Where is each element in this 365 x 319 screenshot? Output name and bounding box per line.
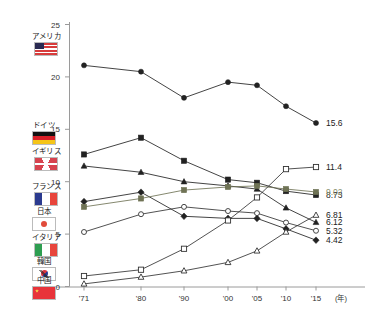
data-point-marker (226, 209, 231, 214)
series-line (84, 192, 316, 240)
legend-item-france[interactable]: フランス (32, 183, 61, 206)
legend-item-label: 日本 (37, 208, 51, 216)
line-chart: 0510152025'71'80'90'00'05'10'15(年)15.68.… (0, 0, 365, 319)
series-line (84, 186, 316, 207)
series-1: 15.6 (82, 63, 343, 128)
data-point-marker (283, 186, 288, 191)
data-point-marker (225, 177, 230, 182)
flag-united-kingdom-icon (34, 157, 58, 171)
data-point-marker (181, 246, 186, 251)
data-point-marker (139, 69, 144, 74)
data-point-marker (225, 184, 230, 189)
legend-item-china[interactable]: 中国 (32, 277, 56, 300)
data-point-marker (254, 183, 259, 188)
data-point-marker (81, 152, 86, 157)
data-point-marker (283, 205, 289, 210)
series-end-value-label: 6.81 (326, 210, 343, 220)
series-8: 6.81 (81, 210, 343, 286)
data-point-marker (255, 211, 260, 216)
data-point-marker (81, 273, 86, 278)
data-point-marker (181, 158, 186, 163)
flag-italy-icon (34, 243, 58, 257)
data-point-marker (284, 220, 289, 225)
series-line (84, 166, 316, 222)
data-point-marker (82, 63, 87, 68)
legend-item-label: アメリカ (32, 33, 61, 41)
series-line (84, 207, 316, 232)
data-point-marker (139, 212, 144, 217)
data-point-marker (255, 83, 260, 88)
x-axis-tick-label: '90 (179, 294, 190, 303)
legend-item-label: フランス (32, 183, 61, 191)
legend-item-label: 中国 (37, 277, 51, 285)
x-axis-tick-label: '80 (136, 294, 147, 303)
legend-item-label: 韓国 (37, 258, 51, 266)
flag-japan-icon (32, 217, 56, 231)
series-end-value-label: 15.6 (326, 118, 343, 128)
legend-item-italy[interactable]: イタリア (32, 234, 61, 257)
data-point-marker (254, 248, 260, 253)
flag-germany-icon (32, 131, 56, 145)
flag-france-icon (34, 192, 58, 206)
data-point-marker (313, 237, 319, 244)
series-end-value-label: 9.02 (326, 187, 343, 197)
data-point-marker (313, 164, 318, 169)
legend-item-label: ドイツ (33, 122, 55, 130)
y-axis-tick-label: 0 (56, 283, 61, 292)
series-end-value-label: 5.32 (326, 226, 343, 236)
y-axis-tick-label: 25 (51, 21, 60, 30)
y-axis-tick-label: 20 (51, 73, 60, 82)
x-axis-unit-label: (年) (335, 293, 347, 303)
data-point-marker (313, 189, 318, 194)
series-line (84, 65, 316, 123)
legend-item-united-kingdom[interactable]: イギリス (32, 148, 61, 171)
legend-item-label: イタリア (32, 234, 61, 242)
data-point-marker (81, 198, 87, 205)
data-point-marker (314, 121, 319, 126)
series-line (84, 138, 316, 195)
data-point-marker (138, 267, 143, 272)
data-point-marker (283, 167, 288, 172)
x-axis-tick-label: '15 (311, 294, 322, 303)
data-point-marker (181, 213, 187, 220)
legend-item-japan[interactable]: 日本 (32, 208, 56, 231)
x-axis-tick-label: '05 (252, 294, 263, 303)
data-point-marker (138, 196, 143, 201)
data-point-marker (225, 218, 230, 223)
data-point-marker (81, 163, 87, 168)
legend-item-united-states[interactable]: アメリカ (32, 33, 61, 56)
flag-china-icon (32, 286, 56, 300)
data-point-marker (284, 104, 289, 109)
series-end-value-label: 11.4 (326, 162, 342, 172)
series-end-value-label: 4.42 (326, 235, 343, 245)
data-point-marker (226, 80, 231, 85)
series-5: 9.02 (81, 183, 342, 209)
data-point-marker (138, 135, 143, 140)
data-point-marker (182, 95, 187, 100)
legend-item-germany[interactable]: ドイツ (32, 122, 56, 145)
series-line (84, 215, 316, 284)
data-point-marker (182, 204, 187, 209)
data-point-marker (81, 204, 86, 209)
data-point-marker (314, 228, 319, 233)
x-axis-tick-label: '10 (281, 294, 292, 303)
x-axis-tick-label: '71 (79, 294, 90, 303)
data-point-marker (138, 189, 144, 196)
data-point-marker (181, 187, 186, 192)
series-4: 4.42 (81, 189, 343, 245)
flag-united-states-icon (34, 42, 58, 56)
data-point-marker (313, 212, 319, 217)
data-point-marker (82, 230, 87, 235)
data-point-marker (313, 219, 319, 224)
data-point-marker (254, 195, 259, 200)
x-axis-tick-label: '00 (223, 294, 234, 303)
legend-item-label: イギリス (32, 148, 61, 156)
